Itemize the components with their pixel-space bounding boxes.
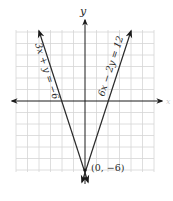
intersection-point — [83, 168, 86, 171]
line1-label: 3x + y = −6 — [33, 41, 62, 100]
y-axis-label: y — [79, 5, 87, 18]
x-axis-label: x — [166, 97, 171, 106]
point-label: (0, −6) — [91, 162, 125, 173]
line-6x-minus-2y — [82, 31, 131, 182]
graph: y x 3x + y = −6 6x − 2y = 12 (0, −6) — [0, 0, 173, 201]
